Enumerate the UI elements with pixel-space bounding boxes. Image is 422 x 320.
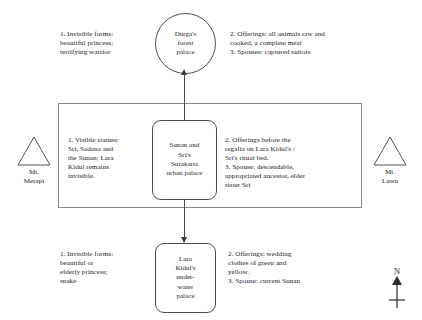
compass-north-group: N (384, 267, 410, 313)
mountain-triangle-icon (17, 136, 51, 166)
north-arrow-icon (384, 276, 410, 313)
mount-lawu-group: Mt. Lawu (362, 136, 418, 186)
annotation-middle-left: 1. Visible statues: Sri, Sadana and the … (68, 136, 148, 181)
compass-north-label: N (384, 267, 410, 276)
annotation-bottom-right: 2. Offerings: wedding clothes of green a… (228, 250, 358, 286)
annotation-durga-left: 1. Invisible forms: beautiful princess; … (60, 30, 152, 57)
node-surakarta-urban-palace: Sunan and Sri's Surakarta urban palace (152, 120, 217, 200)
diagram-canvas: Durga's forest palace Sunan and Sri's Su… (0, 0, 422, 320)
mount-merapi-label: Mt. Merapi (6, 168, 62, 186)
mount-merapi-group: Mt. Merapi (6, 136, 62, 186)
arrowhead-up-icon (181, 69, 187, 75)
annotation-bottom-left: 1. Invisible forms: beautiful or elderly… (60, 250, 152, 286)
node-durga-forest-palace: Durga's forest palace (155, 13, 216, 74)
node-lara-kidul-label: Lara Kidul's under- water palace (175, 255, 195, 301)
node-lara-kidul-underwater-palace: Lara Kidul's under- water palace (155, 243, 216, 313)
mountain-triangle-icon (373, 136, 407, 166)
mount-lawu-label: Mt. Lawu (362, 168, 418, 186)
annotation-durga-right: 2. Offerings: all animals raw and cooked… (230, 30, 395, 57)
node-surakarta-label: Sunan and Sri's Surakarta urban palace (166, 141, 202, 178)
node-durga-label: Durga's forest palace (175, 30, 197, 58)
annotation-middle-right: 2. Offerings before the regalia on Lara … (225, 136, 360, 191)
arrowhead-down-icon (181, 237, 187, 243)
